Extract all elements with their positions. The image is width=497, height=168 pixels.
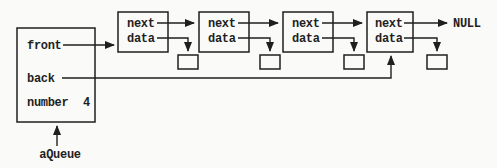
list-node-1: next data [118,12,198,69]
data-pointer-arrow [322,38,354,51]
queue-linked-list-diagram: front back number 4 aQueue next data nex… [0,0,497,168]
list-node-2: next data [199,12,280,69]
node-data-label: data [292,32,320,46]
field-label-number: number [27,96,69,110]
back-pointer-arrow [62,56,391,78]
node-next-label: next [292,17,320,31]
null-label: NULL [453,17,481,31]
data-pointer-arrow [238,38,270,51]
field-label-back: back [27,72,55,86]
field-label-front: front [27,39,62,53]
aqueue-pointer: aQueue [39,126,81,162]
data-value-box [344,55,364,69]
list-node-4: next data [367,12,447,69]
list-node-3: next data [283,12,364,69]
data-value-box [427,55,447,69]
aqueue-label: aQueue [39,148,81,162]
data-pointer-arrow [157,38,188,51]
data-pointer-arrow [404,38,437,51]
data-value-box [178,55,198,69]
queue-record: front back number 4 [17,28,95,122]
node-next-label: next [127,17,155,31]
node-next-label: next [208,17,236,31]
node-next-label: next [375,17,403,31]
field-value-number: 4 [83,96,90,110]
data-value-box [260,55,280,69]
node-data-label: data [208,32,236,46]
node-data-label: data [375,32,403,46]
queue-diagram-canvas: front back number 4 aQueue next data nex… [0,0,497,168]
node-data-label: data [127,32,155,46]
